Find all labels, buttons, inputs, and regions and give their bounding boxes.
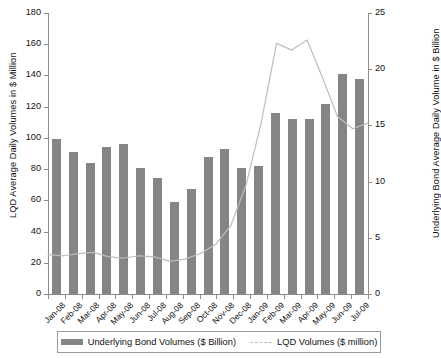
x-axis-tick bbox=[200, 295, 201, 299]
legend-item-lqd-volumes: LQD Volumes ($ million) bbox=[250, 337, 377, 347]
x-axis-tick bbox=[233, 295, 234, 299]
y-axis-left-tick-label: 80 bbox=[15, 163, 41, 173]
x-axis-tick bbox=[99, 295, 100, 299]
y-axis-left-tick-label: 40 bbox=[15, 226, 41, 236]
x-axis-tick bbox=[132, 295, 133, 299]
bar-swatch-icon bbox=[61, 339, 83, 345]
lqd-polyline bbox=[48, 40, 368, 261]
x-axis-tick bbox=[351, 295, 352, 299]
plot-area bbox=[48, 13, 368, 294]
y-axis-left-tick-label: 20 bbox=[15, 257, 41, 267]
x-axis-tick bbox=[48, 295, 49, 299]
y-axis-right-line bbox=[368, 13, 369, 295]
y-axis-left-tick-label: 0 bbox=[15, 288, 41, 298]
x-axis-tick bbox=[267, 295, 268, 299]
x-axis-tick bbox=[216, 295, 217, 299]
x-axis-tick bbox=[65, 295, 66, 299]
chart-legend: Underlying Bond Volumes ($ Billion) LQD … bbox=[57, 331, 381, 353]
x-axis-tick bbox=[166, 295, 167, 299]
y-axis-left-tick-label: 60 bbox=[15, 194, 41, 204]
y-axis-right-tick-label: 20 bbox=[375, 63, 401, 73]
y-axis-right-tick-label: 5 bbox=[375, 232, 401, 242]
y-axis-right-title: Underlying Bond Average Daily Volume in … bbox=[431, 48, 441, 238]
legend-item-bond-volumes: Underlying Bond Volumes ($ Billion) bbox=[61, 337, 236, 347]
x-axis-tick bbox=[301, 295, 302, 299]
x-axis-tick bbox=[317, 295, 318, 299]
y-axis-left-tick-label: 100 bbox=[15, 132, 41, 142]
lqd-line-series bbox=[48, 13, 368, 294]
y-axis-right-tick-label: 0 bbox=[375, 288, 401, 298]
y-axis-right-tick-label: 15 bbox=[375, 119, 401, 129]
x-axis-tick bbox=[115, 295, 116, 299]
x-axis-tick bbox=[250, 295, 251, 299]
x-axis-tick bbox=[334, 295, 335, 299]
legend-label-lqd-volumes: LQD Volumes ($ million) bbox=[277, 337, 377, 347]
x-axis-tick bbox=[149, 295, 150, 299]
x-axis-tick bbox=[284, 295, 285, 299]
y-axis-right-tick-label: 10 bbox=[375, 176, 401, 186]
legend-label-bond-volumes: Underlying Bond Volumes ($ Billion) bbox=[88, 337, 236, 347]
y-axis-left-tick-label: 140 bbox=[15, 69, 41, 79]
x-axis-line bbox=[48, 294, 369, 295]
x-axis-tick bbox=[368, 295, 369, 299]
line-swatch-icon bbox=[250, 342, 272, 343]
y-axis-left-tick-label: 120 bbox=[15, 101, 41, 111]
x-axis-tick bbox=[183, 295, 184, 299]
y-axis-right-tick-label: 25 bbox=[375, 7, 401, 17]
y-axis-left-tick-label: 180 bbox=[15, 7, 41, 17]
x-axis-tick bbox=[82, 295, 83, 299]
y-axis-left-tick-label: 160 bbox=[15, 38, 41, 48]
